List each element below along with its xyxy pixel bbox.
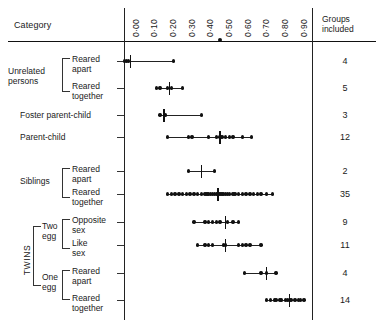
row-axis-tick bbox=[117, 137, 124, 138]
x-tick-label-0: 0·00 bbox=[131, 19, 141, 37]
median-marker bbox=[169, 82, 170, 95]
row-axis-tick bbox=[117, 88, 124, 89]
group-label-unrelated-persons: Unrelated persons bbox=[8, 67, 45, 86]
groups-included-value: 14 bbox=[322, 295, 368, 305]
groups-included-value: 5 bbox=[322, 83, 368, 93]
median-marker bbox=[201, 165, 202, 178]
data-point bbox=[241, 135, 244, 138]
data-point bbox=[218, 220, 221, 223]
x-tick-label-7: 0·70 bbox=[261, 19, 271, 37]
data-point bbox=[211, 243, 214, 246]
data-point bbox=[166, 192, 169, 195]
row-label-7: Like sex bbox=[72, 239, 88, 258]
row-axis-tick bbox=[117, 222, 124, 223]
x-tick-label-6: 0·60 bbox=[243, 19, 253, 37]
groups-included-value: 35 bbox=[322, 189, 368, 199]
data-point bbox=[200, 113, 203, 116]
x-tick-label-1: 0·10 bbox=[149, 19, 159, 37]
x-axis-tick-labels: 0·000·100·200·300·400·500·600·700·800·90 bbox=[0, 0, 384, 41]
data-point bbox=[302, 298, 305, 301]
row-label-2: Foster parent-child bbox=[20, 111, 91, 121]
row-label-8: Reared apart bbox=[72, 267, 100, 286]
kinship-correlation-chart: Category Groups included 0·000·100·200·3… bbox=[0, 0, 384, 326]
groups-included-value: 4 bbox=[322, 56, 368, 66]
data-point bbox=[271, 192, 274, 195]
x-tick-label-4: 0·40 bbox=[205, 19, 215, 37]
data-point bbox=[231, 135, 234, 138]
row-axis-tick bbox=[117, 171, 124, 172]
axis-left-boundary-line bbox=[124, 8, 125, 320]
groups-included-value: 12 bbox=[322, 132, 368, 142]
data-point bbox=[190, 135, 193, 138]
row-axis-tick bbox=[117, 115, 124, 116]
data-point bbox=[207, 135, 210, 138]
data-point bbox=[259, 192, 262, 195]
bracket-siblings bbox=[62, 168, 70, 198]
bracket-two-egg bbox=[62, 219, 70, 249]
data-point bbox=[237, 192, 240, 195]
data-point bbox=[237, 220, 240, 223]
row-label-4: Reared apart bbox=[72, 165, 100, 184]
data-point bbox=[252, 192, 255, 195]
median-marker bbox=[289, 294, 290, 307]
row-axis-tick bbox=[117, 300, 124, 301]
bracket-twins bbox=[33, 226, 41, 286]
row-axis-tick bbox=[117, 245, 124, 246]
median-marker bbox=[217, 188, 218, 201]
row-label-3: Parent-child bbox=[20, 133, 65, 143]
row-range-line bbox=[127, 61, 174, 62]
axis-right-boundary-line bbox=[312, 8, 313, 320]
median-marker bbox=[219, 131, 220, 144]
data-point bbox=[181, 86, 184, 89]
group-label-one-egg: One egg bbox=[42, 273, 58, 292]
data-point bbox=[158, 113, 161, 116]
data-point bbox=[192, 220, 195, 223]
data-point bbox=[265, 192, 268, 195]
data-point bbox=[196, 192, 199, 195]
data-point bbox=[265, 298, 268, 301]
groups-included-value: 3 bbox=[322, 110, 368, 120]
data-point bbox=[158, 86, 161, 89]
group-label-twins: TWINS bbox=[22, 245, 32, 275]
data-point bbox=[237, 243, 240, 246]
row-label-9: Reared together bbox=[72, 294, 103, 313]
row-label-5: Reared together bbox=[72, 188, 103, 207]
data-point bbox=[231, 220, 234, 223]
row-axis-tick bbox=[117, 273, 124, 274]
row-label-6: Opposite sex bbox=[72, 216, 106, 235]
data-point bbox=[274, 271, 277, 274]
data-point bbox=[224, 135, 227, 138]
data-point bbox=[280, 298, 283, 301]
groups-included-value: 9 bbox=[322, 217, 368, 227]
data-point bbox=[248, 243, 251, 246]
data-point bbox=[259, 271, 262, 274]
groups-included-value: 2 bbox=[322, 166, 368, 176]
group-label-two-egg: Two egg bbox=[42, 222, 58, 241]
median-marker bbox=[225, 216, 226, 229]
data-point bbox=[243, 271, 246, 274]
data-point bbox=[181, 192, 184, 195]
data-point bbox=[172, 59, 175, 62]
data-point bbox=[250, 135, 253, 138]
data-point bbox=[207, 220, 210, 223]
data-point bbox=[213, 169, 216, 172]
data-point bbox=[207, 243, 210, 246]
group-label-siblings: Siblings bbox=[20, 177, 50, 187]
bracket-unrelated-persons bbox=[62, 58, 70, 92]
median-marker bbox=[225, 239, 226, 252]
groups-included-value: 4 bbox=[322, 268, 368, 278]
overall-mean-rule-marker bbox=[218, 38, 222, 42]
row-axis-tick bbox=[117, 194, 124, 195]
x-tick-label-5: 0·50 bbox=[224, 19, 234, 37]
median-marker bbox=[130, 55, 131, 68]
data-point bbox=[293, 298, 296, 301]
data-point bbox=[211, 220, 214, 223]
x-tick-label-2: 0·20 bbox=[168, 19, 178, 37]
data-point bbox=[196, 243, 199, 246]
header-divider-rule bbox=[8, 41, 376, 42]
median-marker bbox=[266, 267, 267, 280]
row-label-0: Reared apart bbox=[72, 55, 100, 74]
x-tick-label-8: 0·80 bbox=[280, 19, 290, 37]
x-tick-label-9: 0·90 bbox=[299, 19, 309, 37]
bracket-one-egg bbox=[62, 270, 70, 300]
